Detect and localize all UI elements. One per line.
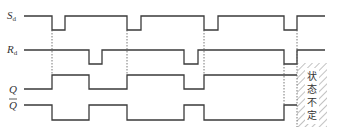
signal-label-qbar: Q [9, 99, 17, 111]
signal-label-q: Q [9, 83, 17, 95]
note-char: 不 [307, 97, 317, 108]
rd-label-main: Rd [6, 43, 18, 57]
sd-label-main: Sd [7, 9, 17, 23]
waveform-q [24, 75, 297, 89]
note-char: 定 [307, 109, 317, 121]
waveform-rd [24, 50, 325, 64]
signal-label-sd: Sd [7, 9, 17, 23]
q-label: Q [9, 83, 17, 95]
note-char: 状 [307, 70, 317, 82]
timing-diagram: Sd Rd Q Q 状态不定 [0, 0, 337, 137]
waveform-sd [24, 16, 325, 30]
qbar-label: Q [9, 99, 17, 111]
note-char: 态 [307, 83, 317, 95]
waveform-qbar [24, 105, 297, 120]
signal-label-rd: Rd [6, 43, 18, 57]
